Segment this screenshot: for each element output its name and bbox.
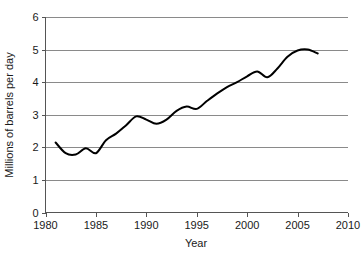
y-tick-label-4: 4 (32, 76, 38, 88)
x-tick-label-1985: 1985 (84, 219, 108, 231)
line-chart: 0123456 1980198519901995200020052010 Mil… (0, 0, 363, 263)
y-tick-label-2: 2 (32, 141, 38, 153)
x-tick-label-1980: 1980 (33, 219, 57, 231)
x-tick-label-2010: 2010 (336, 219, 360, 231)
x-tick-label-1990: 1990 (134, 219, 158, 231)
y-axis-title: Millions of barrels per day (3, 52, 15, 178)
y-tick-label-6: 6 (32, 11, 38, 23)
chart-canvas: 0123456 1980198519901995200020052010 Mil… (0, 0, 363, 263)
y-tick-label-1: 1 (32, 174, 38, 186)
x-tick-label-2005: 2005 (285, 219, 309, 231)
x-axis-title: Year (185, 237, 208, 249)
x-tick-label-1995: 1995 (185, 219, 209, 231)
y-tick-label-0: 0 (32, 207, 38, 219)
x-tick-label-2000: 2000 (235, 219, 259, 231)
y-tick-label-5: 5 (32, 44, 38, 56)
y-tick-label-3: 3 (32, 109, 38, 121)
